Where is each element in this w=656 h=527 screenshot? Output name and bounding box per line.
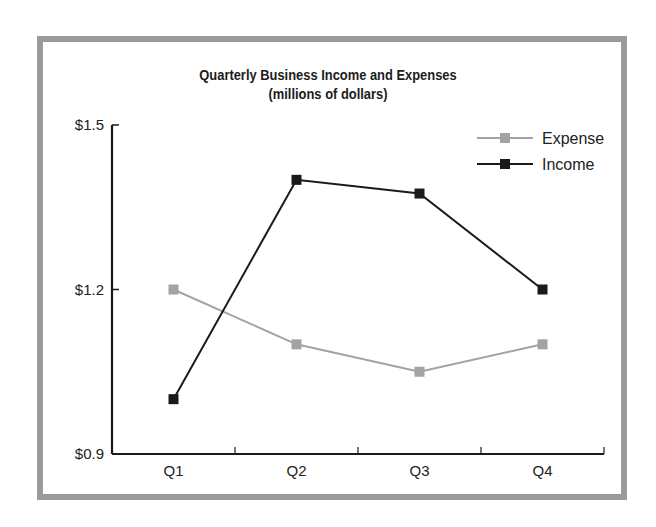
series-line-income bbox=[174, 180, 543, 399]
data-point-expense bbox=[292, 339, 302, 349]
y-tick-label: $1.5 bbox=[75, 116, 104, 133]
x-tick-label: Q3 bbox=[409, 462, 429, 479]
y-tick-label: $0.9 bbox=[75, 445, 104, 462]
legend-label-expense: Expense bbox=[542, 130, 604, 147]
x-tick-label: Q2 bbox=[286, 462, 306, 479]
data-point-income bbox=[415, 189, 425, 199]
x-tick-label: Q4 bbox=[532, 462, 552, 479]
y-tick-label: $1.2 bbox=[75, 281, 104, 298]
data-point-expense bbox=[169, 285, 179, 295]
legend-marker-expense bbox=[500, 133, 510, 143]
data-point-expense bbox=[415, 367, 425, 377]
data-point-income bbox=[292, 175, 302, 185]
data-point-expense bbox=[538, 339, 548, 349]
legend-marker-income bbox=[500, 159, 510, 169]
x-tick-label: Q1 bbox=[163, 462, 183, 479]
legend-label-income: Income bbox=[542, 156, 595, 173]
data-point-income bbox=[169, 394, 179, 404]
line-chart: $0.9$1.2$1.5Q1Q2Q3Q4ExpenseIncome bbox=[0, 0, 656, 527]
data-point-income bbox=[538, 285, 548, 295]
